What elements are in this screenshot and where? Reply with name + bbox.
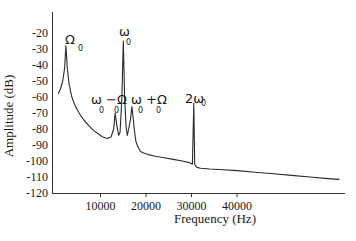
svg-text:Ω: Ω <box>65 32 75 47</box>
peak-label-omega0-plus-Omega0: ω +Ω 0 0 <box>131 92 167 115</box>
x-tick-label: 20000 <box>131 199 161 213</box>
svg-text:0: 0 <box>138 106 143 115</box>
svg-text:ω +Ω: ω +Ω <box>131 92 167 107</box>
x-tick-label: 10000 <box>86 199 116 213</box>
y-tick-label: -30 <box>32 42 48 56</box>
svg-text:ω: ω <box>119 24 130 39</box>
y-tick-labels: -20-30-40-50-60-70-80-90-100-110-120 <box>26 26 48 200</box>
y-tick-label: -20 <box>32 26 48 40</box>
svg-text:0: 0 <box>114 106 119 115</box>
y-tick-label: -110 <box>26 170 48 184</box>
y-axis-title: Amplitude (dB) <box>1 75 16 158</box>
svg-text:0: 0 <box>156 106 161 115</box>
spectrum-chart: -20-30-40-50-60-70-80-90-100-110-120 100… <box>0 0 356 241</box>
y-tick-label: -50 <box>32 74 48 88</box>
svg-text:0: 0 <box>126 38 131 47</box>
y-tick-label: -120 <box>26 186 48 200</box>
y-tick-label: -90 <box>32 138 48 152</box>
svg-text:ω −Ω: ω −Ω <box>91 92 127 107</box>
svg-text:0: 0 <box>78 44 83 53</box>
y-tick-label: -40 <box>32 58 48 72</box>
y-tick-label: -80 <box>32 122 48 136</box>
peak-label-omega0: ω 0 <box>119 24 131 47</box>
svg-text:0: 0 <box>201 99 206 108</box>
y-tick-label: -60 <box>32 90 48 104</box>
y-tick-label: -100 <box>26 154 48 168</box>
peak-label-Omega0: Ω 0 <box>65 32 83 53</box>
x-axis-title: Frequency (Hz) <box>174 211 256 226</box>
y-tick-label: -70 <box>32 106 48 120</box>
peak-label-2omega0: 2ω 0 <box>185 91 206 108</box>
svg-text:0: 0 <box>99 106 104 115</box>
